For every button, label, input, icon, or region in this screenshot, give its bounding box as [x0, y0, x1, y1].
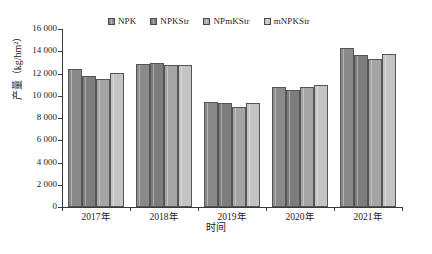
bar-mnpkstr-2020年: [314, 85, 328, 207]
y-axis-tick: [58, 96, 62, 97]
bar-group: [340, 29, 396, 207]
legend-entry-mnpkstr: mNPKStr: [264, 16, 310, 26]
y-axis-tick-label: 6 000: [37, 134, 57, 145]
bar-npk-2020年: [272, 87, 286, 207]
y-axis-tick-label: 16 000: [32, 23, 57, 34]
bar-npkstr-2018年: [150, 63, 164, 207]
y-axis-tick: [58, 140, 62, 141]
legend-swatch-icon: [264, 18, 271, 25]
bar-npkstr-2017年: [82, 76, 96, 207]
y-axis-title: 产量（kg/hm²）: [12, 0, 24, 136]
bar-npk-2018年: [136, 64, 150, 207]
y-axis-tick: [58, 51, 62, 52]
y-axis-tick-label: 4 000: [37, 157, 57, 168]
bar-npmkstr-2021年: [368, 59, 382, 207]
y-axis-tick-label: 8 000: [37, 112, 57, 123]
bar-mnpkstr-2019年: [246, 103, 260, 207]
legend-label: NPK: [118, 16, 136, 26]
x-axis-line: [62, 207, 402, 208]
legend-swatch-icon: [150, 18, 157, 25]
x-axis-tick: [402, 207, 403, 211]
y-axis-line: [62, 29, 63, 207]
bar-npkstr-2020年: [286, 90, 300, 207]
bar-group: [204, 29, 260, 207]
bar-mnpkstr-2021年: [382, 54, 396, 207]
x-axis-title: 时间: [0, 222, 432, 234]
bar-mnpkstr-2017年: [110, 73, 124, 207]
y-axis-tick: [58, 29, 62, 30]
bar-npk-2017年: [68, 69, 82, 208]
legend-label: NPKStr: [160, 16, 189, 26]
y-axis-tick: [58, 185, 62, 186]
bar-mnpkstr-2018年: [178, 65, 192, 208]
legend-label: mNPKStr: [274, 16, 310, 26]
bar-npmkstr-2018年: [164, 65, 178, 207]
legend-label: NPmKStr: [213, 16, 249, 26]
legend-entry-npmkstr: NPmKStr: [203, 16, 249, 26]
bar-npk-2019年: [204, 102, 218, 207]
bar-npkstr-2019年: [218, 103, 232, 207]
y-axis-tick-label: 10 000: [32, 90, 57, 101]
y-axis-tick: [58, 118, 62, 119]
y-axis-tick-label: 12 000: [32, 68, 57, 79]
bar-chart-figure: NPKNPKStrNPmKStrmNPKStr 02 0004 0006 000…: [0, 0, 432, 254]
bar-group: [272, 29, 328, 207]
bar-npmkstr-2020年: [300, 87, 314, 207]
bar-npk-2021年: [340, 48, 354, 207]
y-axis-tick: [58, 163, 62, 164]
legend-entry-npkstr: NPKStr: [150, 16, 189, 26]
y-axis-tick-label: 0: [53, 201, 58, 212]
bar-group: [136, 29, 192, 207]
chart-legend: NPKNPKStrNPmKStrmNPKStr: [108, 13, 408, 29]
y-axis-tick-label: 14 000: [32, 45, 57, 56]
bar-npmkstr-2017年: [96, 79, 110, 207]
bar-npkstr-2021年: [354, 55, 368, 207]
bar-group: [68, 29, 124, 207]
y-axis-tick-label: 2 000: [37, 179, 57, 190]
bar-npmkstr-2019年: [232, 107, 246, 207]
plot-area: 02 0004 0006 0008 00010 00012 00014 0001…: [62, 29, 402, 207]
y-axis-tick: [58, 74, 62, 75]
legend-swatch-icon: [108, 18, 115, 25]
legend-swatch-icon: [203, 18, 210, 25]
legend-entry-npk: NPK: [108, 16, 136, 26]
